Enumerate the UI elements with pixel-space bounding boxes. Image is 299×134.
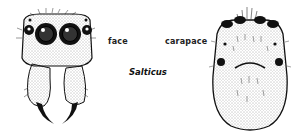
spider-face-illustration xyxy=(10,8,102,128)
label-face: face xyxy=(108,37,128,46)
figure-title: Salticus xyxy=(129,67,167,77)
label-carapace: carapace xyxy=(165,37,207,46)
spider-carapace-illustration xyxy=(207,6,293,132)
